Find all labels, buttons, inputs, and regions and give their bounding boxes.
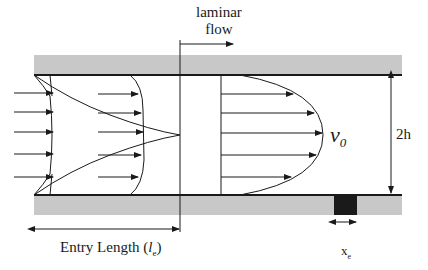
- flow-label-line2: flow: [196, 21, 242, 38]
- sensor-block: [334, 195, 357, 215]
- developed-arrows: [221, 94, 322, 177]
- sensor-label: xe: [341, 243, 351, 261]
- entry-length-text: Entry Length (: [60, 239, 148, 255]
- laminar-label-line1: laminar: [196, 4, 242, 21]
- entry-length-label: Entry Length (le): [60, 239, 161, 258]
- developing-arrows: [98, 94, 143, 177]
- inlet-arrows: [14, 93, 53, 177]
- boundary-layer-bottom: [34, 135, 180, 195]
- velocity-label: v0: [330, 122, 346, 151]
- top-wall: [34, 55, 402, 75]
- laminar-flow-label: laminar flow: [196, 4, 242, 38]
- entry-length-close: ): [156, 239, 161, 255]
- velocity-symbol: v: [330, 122, 340, 147]
- velocity-subscript: 0: [340, 135, 347, 150]
- channel-flow-diagram: [0, 0, 428, 270]
- sensor-subscript: e: [348, 252, 352, 261]
- boundary-layer-top: [34, 75, 180, 135]
- height-label: 2h: [396, 126, 411, 143]
